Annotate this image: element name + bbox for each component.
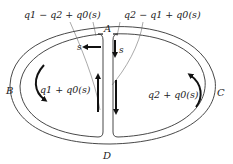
annotation-top-right: q2 − q1 + q0(s) <box>124 9 201 20</box>
label-s-right: s <box>119 45 124 55</box>
shear-flow-diagram: A B C D s s q1 − q2 + q0(s) q2 − q1 + q0… <box>0 0 233 164</box>
right-cell-inner-wall <box>113 34 205 137</box>
leader-line-left <box>70 22 100 110</box>
leader-line-right <box>112 22 143 85</box>
annotation-left-cell: q1 + q0(s) <box>40 84 91 95</box>
leader-line-left-top <box>93 22 96 36</box>
label-s-left: s <box>77 42 82 52</box>
label-A: A <box>103 23 111 34</box>
annotation-top-left: q1 − q2 + q0(s) <box>24 9 101 20</box>
annotation-right-cell: q2 + q0(s) <box>148 89 199 100</box>
label-B: B <box>5 85 13 96</box>
label-D: D <box>102 150 111 161</box>
label-C: C <box>217 87 225 98</box>
